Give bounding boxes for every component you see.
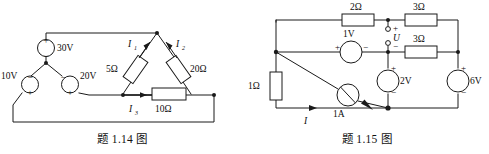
current-i3-arrowhead: [140, 92, 147, 98]
source-30v-label: 30V: [57, 43, 74, 53]
terminal-minus-circle: [386, 41, 391, 46]
figure-1-14-caption: 题 1.14 图: [0, 130, 245, 146]
resistor-10ohm-label: 10Ω: [155, 104, 172, 114]
source-6v-plus: +: [461, 63, 466, 73]
source-6v-minus: −: [461, 87, 466, 97]
source-1a: 1A: [333, 84, 373, 119]
source-20v-plus: +: [68, 87, 73, 97]
source-1v-label: 1V: [343, 29, 355, 39]
voltage-u-plus: +: [393, 23, 398, 33]
resistor-3ohm-middle: 3Ω: [405, 34, 437, 58]
figure-1-15: 2Ω 3Ω 3Ω 1Ω + − 1V: [245, 0, 489, 154]
figure-1-15-caption: 题 1.15 图: [245, 130, 489, 146]
source-20v-minus: −: [61, 72, 66, 82]
resistor-5ohm-label: 5Ω: [106, 64, 118, 74]
resistor-5ohm: 5Ω: [106, 55, 148, 83]
source-30v-plus: +: [44, 35, 49, 45]
figure-page: + − 30V − + 10V − + 20V: [0, 0, 489, 154]
wire-5ohm-to-bl: [123, 82, 131, 94]
source-1v-plus: +: [335, 42, 340, 52]
source-1v: + − 1V: [335, 29, 368, 63]
resistor-20ohm-label: 20Ω: [190, 64, 207, 74]
resistor-20ohm: 20Ω: [166, 55, 206, 83]
terminal-plus-circle: [386, 27, 391, 32]
current-i3-symbol: I: [128, 104, 133, 114]
source-2v-label: 2V: [400, 76, 412, 86]
current-i3-subscript: 3: [134, 110, 138, 116]
junction-dot-right-mid: [456, 50, 460, 54]
source-2v-plus: +: [391, 63, 396, 73]
resistor-2ohm-label: 2Ω: [350, 2, 362, 12]
junction-dot-left-mid: [274, 50, 278, 54]
current-i-symbol: I: [303, 116, 308, 126]
junction-dot-apex: [155, 31, 159, 35]
source-6v: + − 6V: [447, 63, 482, 97]
current-i2-arrowhead: [166, 42, 173, 50]
source-20v-label: 20V: [80, 71, 97, 81]
source-6v-label: 6V: [470, 76, 482, 86]
current-i-arrowhead: [309, 105, 317, 111]
source-1a-label: 1A: [333, 109, 345, 119]
junction-dot-bottom-left: [121, 93, 125, 97]
junction-dot-center: [44, 61, 48, 65]
current-i1-subscript: 1: [134, 45, 137, 51]
current-i2-subscript: 2: [182, 45, 185, 51]
junction-dot-bottom-right: [212, 93, 216, 97]
resistor-3ohm-middle-label: 3Ω: [413, 34, 425, 44]
resistor-1ohm: 1Ω: [248, 72, 282, 100]
wire-fork-left: [31, 63, 46, 76]
source-30v: + − 30V: [38, 35, 74, 61]
voltage-u-minus: −: [393, 41, 398, 51]
resistor-2ohm: 2Ω: [342, 2, 374, 26]
resistor-3ohm-top: 3Ω: [405, 2, 437, 26]
junction-dot-top-center: [386, 18, 390, 22]
resistor-3ohm-top-label: 3Ω: [413, 2, 425, 12]
wire-top-left: [276, 20, 342, 22]
current-i1-arrowhead: [144, 42, 151, 50]
source-1v-minus: −: [363, 42, 368, 52]
wire-top: [46, 33, 157, 40]
junction-dot-bottom-center: [385, 105, 390, 110]
source-10v-plus: +: [28, 87, 33, 97]
resistor-1ohm-label: 1Ω: [248, 81, 260, 91]
current-i3: I 3: [128, 92, 147, 116]
source-2v-minus: −: [391, 87, 396, 97]
resistor-10ohm: 10Ω: [152, 88, 186, 114]
source-2v: + − 2V: [377, 63, 412, 97]
source-10v-label: 10V: [1, 71, 18, 81]
figure-1-14: + − 30V − + 10V − + 20V: [0, 0, 245, 154]
current-i1-symbol: I: [127, 39, 132, 49]
wire-6v-bottom: [388, 94, 458, 108]
source-10v-minus: −: [28, 72, 33, 82]
wire-top-right: [437, 20, 458, 52]
source-30v-minus: −: [44, 51, 49, 61]
current-i2: I 2: [166, 39, 185, 58]
current-i2-symbol: I: [175, 39, 180, 49]
wire-diagonal-upper: [276, 52, 338, 89]
junction-dot-center-mid: [386, 50, 390, 54]
